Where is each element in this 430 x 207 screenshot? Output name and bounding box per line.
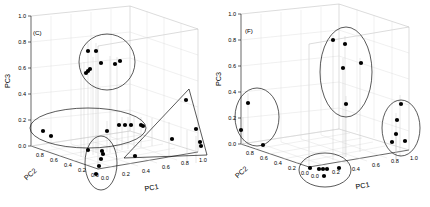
data-point <box>86 49 90 53</box>
data-point <box>97 164 101 168</box>
y-tick-label: 0.4 <box>64 162 72 168</box>
data-point <box>113 62 117 66</box>
data-point <box>261 143 265 147</box>
data-point <box>99 61 103 65</box>
z-tick-label: 0.0 <box>18 143 26 149</box>
z-tick-label: 0.0 <box>228 141 236 147</box>
z-tick-label: 0.8 <box>228 37 236 43</box>
data-point <box>403 139 407 143</box>
y-tick-label: 0.8 <box>246 150 254 156</box>
z-axis-f: 1.0 0.8 0.6 0.4 0.2 0.0 PC3 <box>215 11 241 147</box>
y-tick-label: 0.2 <box>78 167 86 173</box>
data-point <box>246 101 250 105</box>
data-point <box>88 67 92 71</box>
x-tick-label: 0.6 <box>162 164 170 170</box>
z-axis-title: PC3 <box>215 72 223 86</box>
panel-label-f: (F) <box>245 27 253 34</box>
data-point <box>239 128 243 132</box>
data-point <box>199 144 203 148</box>
x-tick-label: 0.2 <box>122 171 130 177</box>
x-tick-label: 0.6 <box>372 162 380 168</box>
z-tick-label: 0.4 <box>228 89 236 95</box>
y-tick-label: 0.6 <box>50 157 58 163</box>
x-tick-label: 1.0 <box>199 157 207 163</box>
x-tick-label: 0.4 <box>352 166 360 172</box>
data-point <box>184 98 188 102</box>
z-tick-label: 1.0 <box>228 11 236 17</box>
data-point <box>399 102 403 106</box>
data-point <box>86 148 90 152</box>
data-point <box>344 102 348 106</box>
data-point <box>390 140 394 144</box>
z-tick-label: 0.6 <box>18 65 26 71</box>
y-tick-label: 0.8 <box>36 152 44 158</box>
data-point <box>117 123 121 127</box>
data-points-c <box>41 49 203 176</box>
z-tick-label: 0.4 <box>18 91 26 97</box>
data-point <box>394 132 398 136</box>
data-point <box>325 167 329 171</box>
data-point <box>141 124 145 128</box>
data-point <box>84 71 88 75</box>
panel-f: 1.0 0.8 0.6 0.4 0.2 0.0 PC3 0.8 0.6 0.4 … <box>215 0 430 207</box>
y-axis-title: PC2 <box>22 166 38 182</box>
data-point <box>94 49 98 53</box>
x-tick-label: 0.8 <box>391 158 399 164</box>
z-tick-label: 1.0 <box>18 13 26 19</box>
x-tick-label: 0.2 <box>332 169 340 175</box>
data-point <box>41 129 45 133</box>
panel-label-c: (C) <box>33 29 42 36</box>
y-tick-label: 0.6 <box>260 155 268 161</box>
cluster-triangle-outline <box>124 89 207 158</box>
z-tick-label: 0.6 <box>228 63 236 69</box>
drop-lines-f <box>243 35 400 160</box>
data-point <box>321 167 325 171</box>
data-point <box>101 152 105 156</box>
data-point <box>49 134 53 138</box>
cluster-outlines-c <box>30 34 207 190</box>
data-point <box>343 42 347 46</box>
x-tick-label: 0.4 <box>142 168 150 174</box>
data-point <box>123 123 127 127</box>
y-tick-label: 0.0 <box>301 170 309 176</box>
z-tick-label: 0.8 <box>18 39 26 45</box>
data-point <box>359 61 363 65</box>
data-point <box>105 129 109 133</box>
y-tick-label: 0.0 <box>91 172 99 178</box>
data-point <box>331 38 335 42</box>
panel-c-canvas: 1.0 0.8 0.6 0.4 0.2 0.0 PC3 0.8 0.6 0.4 … <box>0 0 215 207</box>
x-axis-f: 0.0 0.2 0.4 0.6 0.8 1.0 PC1 <box>311 155 418 191</box>
panel-f-canvas: 1.0 0.8 0.6 0.4 0.2 0.0 PC3 0.8 0.6 0.4 … <box>215 0 430 207</box>
cluster-left-outline <box>235 88 279 146</box>
x-tick-label: 0.0 <box>311 173 319 179</box>
data-point <box>170 137 174 141</box>
data-point <box>395 118 399 122</box>
z-axis-c: 1.0 0.8 0.6 0.4 0.2 0.0 PC3 <box>3 13 31 149</box>
data-point <box>118 59 122 63</box>
x-tick-label: 0.8 <box>181 160 189 166</box>
x-axis-title: PC1 <box>355 180 370 191</box>
data-point <box>317 167 321 171</box>
y-axis-title: PC2 <box>233 164 249 180</box>
y-tick-label: 0.4 <box>274 160 282 166</box>
z-tick-label: 0.2 <box>228 115 236 121</box>
x-tick-label: 1.0 <box>410 155 418 161</box>
y-tick-label: 0.2 <box>288 165 296 171</box>
z-axis-title: PC3 <box>3 74 12 88</box>
data-point <box>194 127 198 131</box>
axes-box-f <box>241 4 409 167</box>
data-point <box>198 140 202 144</box>
data-point <box>129 123 133 127</box>
figure-root: 1.0 0.8 0.6 0.4 0.2 0.0 PC3 0.8 0.6 0.4 … <box>0 0 430 207</box>
panel-c: 1.0 0.8 0.6 0.4 0.2 0.0 PC3 0.8 0.6 0.4 … <box>0 0 215 207</box>
cluster-upper-outline <box>79 34 135 90</box>
z-tick-label: 0.2 <box>18 117 26 123</box>
data-point <box>322 174 326 178</box>
x-axis-title: PC1 <box>144 182 159 193</box>
y-axis-f: 0.8 0.6 0.4 0.2 0.0 PC2 <box>233 150 309 180</box>
data-point <box>133 154 137 158</box>
data-point <box>341 66 345 70</box>
x-tick-label: 0.0 <box>101 175 109 181</box>
data-point <box>99 157 103 161</box>
grid-lines-f <box>241 7 409 167</box>
